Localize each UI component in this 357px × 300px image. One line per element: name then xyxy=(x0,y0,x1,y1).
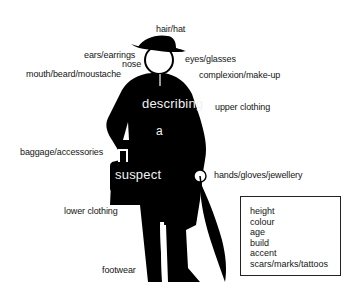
title-word-suspect: suspect xyxy=(115,167,161,182)
umbrella-icon xyxy=(200,182,226,282)
label-baggage-accessories: baggage/accessories xyxy=(20,147,103,157)
attribute-height: height xyxy=(250,206,328,217)
label-hands-gloves-jewellery: hands/gloves/jewellery xyxy=(214,170,302,180)
attribute-scars-marks-tattoos: scars/marks/tattoos xyxy=(250,259,328,270)
label-eyes-glasses: eyes/glasses xyxy=(185,54,236,64)
attributes-list: height colour age build accent scars/mar… xyxy=(250,206,328,270)
label-hair-hat: hair/hat xyxy=(156,24,185,34)
label-lower-clothing: lower clothing xyxy=(64,206,118,216)
label-mouth-beard-moustache: mouth/beard/moustache xyxy=(26,69,121,79)
attribute-build: build xyxy=(250,238,328,249)
general-attributes-box: height colour age build accent scars/mar… xyxy=(240,196,341,276)
label-upper-clothing: upper clothing xyxy=(215,102,270,112)
label-footwear: footwear xyxy=(102,265,136,275)
label-nose: nose xyxy=(122,59,141,69)
attribute-colour: colour xyxy=(250,217,328,228)
title-word-a: a xyxy=(156,124,163,138)
attribute-age: age xyxy=(250,227,328,238)
attribute-accent: accent xyxy=(250,248,328,259)
label-complexion-makeup: complexion/make-up xyxy=(199,70,280,80)
suspect-description-diagram: describing a suspect hair/hat ears/earri… xyxy=(0,0,357,300)
title-word-describing: describing xyxy=(142,96,203,111)
